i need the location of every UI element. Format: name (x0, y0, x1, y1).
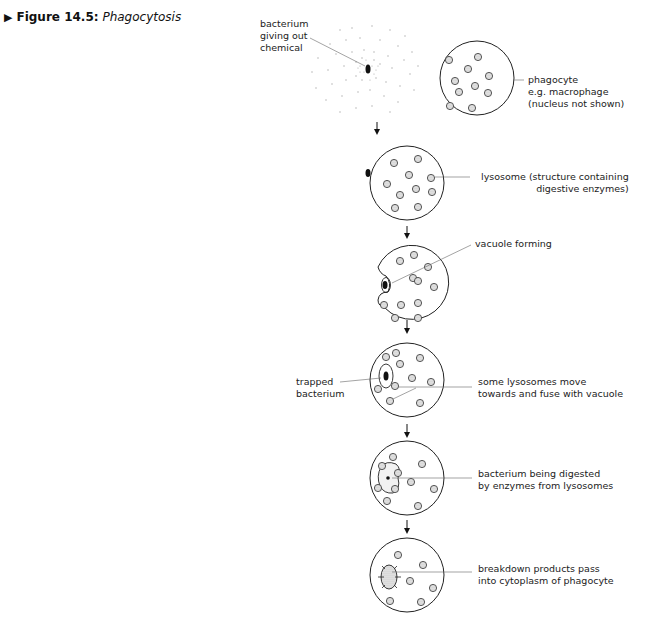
label-digesting: bacterium being digested by enzymes from… (478, 468, 613, 492)
label-lysosome: lysosome (structure containing digestive… (481, 171, 629, 195)
leader-line (310, 38, 365, 66)
chemical-cloud (311, 25, 418, 112)
label-lysosomes-fuse: some lysosomes move towards and fuse wit… (478, 376, 623, 400)
label-phagocyte: phagocyte e.g. macrophage (nucleus not s… (528, 74, 624, 110)
cell-trapped (370, 343, 444, 417)
label-bacterium-chemical: bacterium giving out chemical (260, 18, 308, 54)
label-vacuole-forming: vacuole forming (475, 238, 552, 250)
cell-absorb (370, 538, 444, 612)
cell-engulf (378, 245, 449, 321)
bacterium-icon (366, 65, 371, 74)
cell-attach (366, 146, 445, 220)
phagocyte-cell (440, 41, 514, 115)
label-trapped-bacterium: trapped bacterium (296, 376, 344, 400)
label-breakdown-products: breakdown products pass into cytoplasm o… (478, 563, 614, 587)
